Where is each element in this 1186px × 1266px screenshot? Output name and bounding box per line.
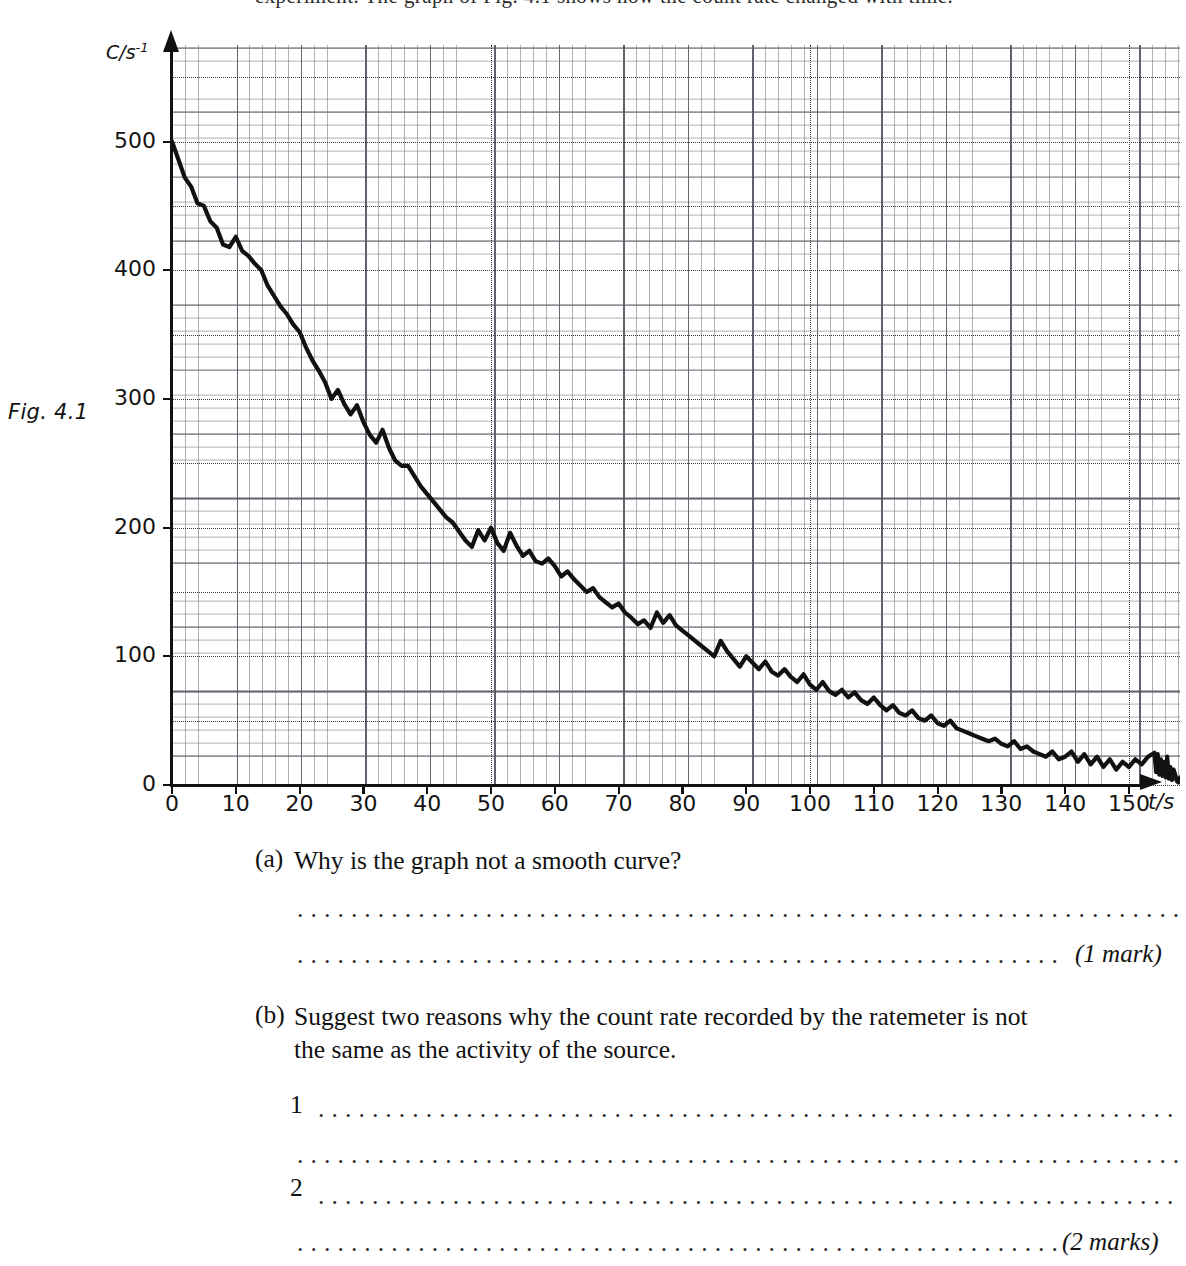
y-axis-title: C/s-1 <box>106 40 149 63</box>
question-a-text: Why is the graph not a smooth curve? <box>294 844 681 878</box>
y-axis-tick-label: 100 <box>96 642 156 667</box>
answer-line-b4[interactable]: ........................................… <box>297 1228 1057 1258</box>
x-axis-tick-label: 50 <box>456 791 526 816</box>
x-axis-tick-label: 100 <box>775 791 845 816</box>
y-axis-arrow-icon <box>163 30 179 52</box>
answer-line-a1[interactable]: ........................................… <box>297 894 1181 924</box>
decay-graph: C/s-1 t/s 010020030040050001020304050607… <box>0 0 1186 830</box>
question-b-text-line2: the same as the activity of the source. <box>294 1033 676 1067</box>
y-axis-exponent: -1 <box>136 40 149 55</box>
y-axis-tick <box>163 655 173 657</box>
y-axis-tick <box>163 527 173 529</box>
x-axis-tick-label: 140 <box>1030 791 1100 816</box>
x-axis-arrow-icon <box>1140 774 1162 790</box>
x-axis-tick-label: 90 <box>711 791 781 816</box>
x-axis-tick-label: 150 <box>1094 791 1164 816</box>
answer-line-a2[interactable]: ........................................… <box>297 940 1057 970</box>
y-axis-tick <box>163 398 173 400</box>
y-axis-tick <box>163 141 173 143</box>
answer-number-2: 2 <box>290 1173 303 1203</box>
y-axis-line <box>170 47 173 787</box>
x-axis-tick-label: 20 <box>265 791 335 816</box>
y-axis-tick <box>163 269 173 271</box>
y-axis-tick-label: 200 <box>96 514 156 539</box>
question-a-marker: (a) <box>255 844 283 874</box>
question-b-marker: (b) <box>255 1000 285 1030</box>
x-axis-tick-label: 40 <box>392 791 462 816</box>
x-axis-tick-label: 70 <box>584 791 654 816</box>
x-axis-line <box>172 784 1144 787</box>
y-axis-tick-label: 400 <box>96 256 156 281</box>
y-axis-tick-label: 300 <box>96 385 156 410</box>
question-b-text: Suggest two reasons why the count rate r… <box>294 1000 1028 1034</box>
y-axis-tick-label: 500 <box>96 128 156 153</box>
graph-paper-grid <box>172 45 1180 785</box>
answer-line-b1[interactable]: ........................................… <box>318 1094 1180 1124</box>
x-axis-tick-label: 80 <box>647 791 717 816</box>
x-axis-tick-label: 0 <box>137 791 207 816</box>
x-axis-tick-label: 130 <box>966 791 1036 816</box>
answer-number-1: 1 <box>290 1090 303 1120</box>
marks-a: (1 mark) <box>1075 940 1162 968</box>
x-axis-tick-label: 120 <box>903 791 973 816</box>
x-axis-tick-label: 10 <box>201 791 271 816</box>
y-axis-unit: C/s <box>106 41 136 63</box>
x-axis-tick-label: 110 <box>839 791 909 816</box>
marks-b: (2 marks) <box>1062 1228 1159 1256</box>
answer-line-b3[interactable]: ........................................… <box>318 1181 1180 1211</box>
answer-line-b2[interactable]: ........................................… <box>297 1140 1181 1170</box>
x-axis-tick-label: 30 <box>328 791 398 816</box>
x-axis-tick-label: 60 <box>520 791 590 816</box>
